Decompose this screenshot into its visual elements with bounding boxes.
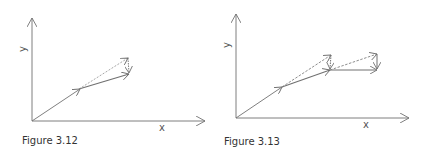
x-axis-label: x: [159, 123, 165, 133]
dotted-correction-1: [330, 55, 331, 69]
figure-caption: Figure 3.12: [22, 136, 78, 146]
dashed-vector-1: [282, 55, 331, 87]
dashed-vector: [79, 58, 128, 89]
vector-2: [282, 70, 330, 87]
vector-2: [79, 74, 129, 89]
y-axis-label: y: [222, 42, 232, 48]
dotted-correction: [128, 58, 129, 73]
figure-caption: Figure 3.13: [224, 137, 280, 147]
dashed-vector-2: [330, 54, 377, 70]
vector-1: [236, 87, 282, 118]
vector-1: [32, 89, 80, 121]
y-axis-label: y: [18, 46, 28, 52]
diagram-canvas: [0, 0, 432, 157]
x-axis-label: x: [363, 120, 369, 130]
figure-3-13: [236, 14, 409, 118]
figure-3-12: [32, 18, 205, 121]
